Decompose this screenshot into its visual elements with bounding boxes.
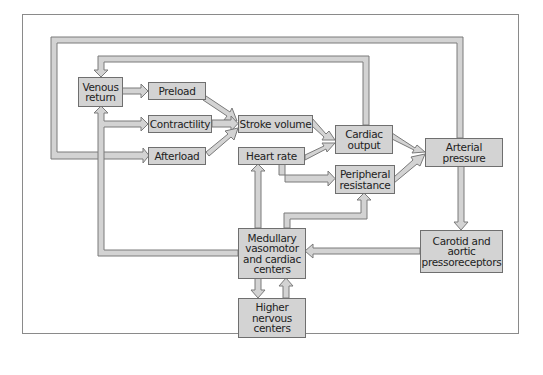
node-label: Higher nervous centers xyxy=(252,302,292,334)
node-label: Peripheral resistance xyxy=(340,169,391,190)
node-label: Carotid and aortic pressoreceptors xyxy=(422,236,502,268)
arrow-stroke-to-cardiac xyxy=(312,118,335,140)
node-label: Afterload xyxy=(155,151,200,162)
arrow-medullary-to-heart xyxy=(251,164,265,228)
node-arterial-pressure: Arterial pressure xyxy=(425,138,503,167)
node-afterload: Afterload xyxy=(148,147,206,165)
node-label: Cardiac output xyxy=(345,129,383,150)
arrow-heart-to-peripheral xyxy=(279,164,335,186)
arrow-peripheral-to-arterial xyxy=(394,154,425,183)
node-label: Preload xyxy=(158,86,195,97)
node-label: Heart rate xyxy=(246,151,297,162)
node-label: Venous return xyxy=(82,82,118,103)
node-peripheral-resistance: Peripheral resistance xyxy=(335,165,395,194)
node-label: Arterial pressure xyxy=(443,142,486,163)
node-stroke-volume: Stroke volume xyxy=(238,115,313,133)
arrow-medullary-to-higher xyxy=(251,278,265,298)
node-label: Contractility xyxy=(150,119,210,130)
node-carotid-pressoreceptors: Carotid and aortic pressoreceptors xyxy=(420,230,503,273)
arrow-cardiac-to-arterial xyxy=(392,133,425,153)
node-cardiac-output: Cardiac output xyxy=(335,125,393,154)
node-contractility: Contractility xyxy=(148,115,212,133)
node-higher-nervous-centers: Higher nervous centers xyxy=(238,298,306,338)
node-venous-return: Venous return xyxy=(78,77,123,107)
node-label: Stroke volume xyxy=(240,119,312,130)
arrow-heart-to-cardiac xyxy=(305,143,335,160)
node-medullary-centers: Medullary vasomotor and cardiac centers xyxy=(238,228,306,279)
arrow-venous-to-preload xyxy=(122,84,148,98)
node-heart-rate: Heart rate xyxy=(238,147,305,165)
node-preload: Preload xyxy=(148,82,206,100)
node-label: Medullary vasomotor and cardiac centers xyxy=(243,233,301,275)
arrow-medullary-to-peripheral xyxy=(284,193,371,228)
arrow-carotid-to-medullary xyxy=(305,244,420,258)
arrow-higher-to-medullary xyxy=(279,278,293,298)
arrow-arterial-to-carotid xyxy=(454,166,468,230)
